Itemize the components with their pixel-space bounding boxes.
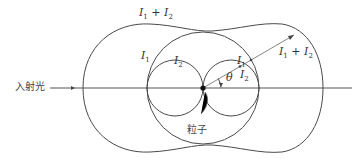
particle-dot — [200, 85, 205, 90]
label-lobe-ray: I2 — [240, 69, 249, 83]
scattering-polar-diagram — [0, 0, 363, 159]
ray-point-middle — [250, 59, 253, 62]
label-middle-left: I1 — [141, 50, 150, 64]
angle-theta-label: θ — [226, 72, 233, 83]
label-lobe-left: I2 — [174, 55, 183, 69]
incident-light-label: 入射光 — [15, 82, 45, 92]
ray-arrowhead-icon — [288, 35, 294, 40]
angle-arrowhead-icon — [219, 83, 223, 87]
incident-arrowhead-icon — [71, 86, 75, 90]
label-outer-ray: I1 + I2 — [279, 46, 313, 60]
label-outer-top: I1 + I2 — [139, 7, 173, 21]
particle-label: 粒子 — [187, 125, 207, 135]
